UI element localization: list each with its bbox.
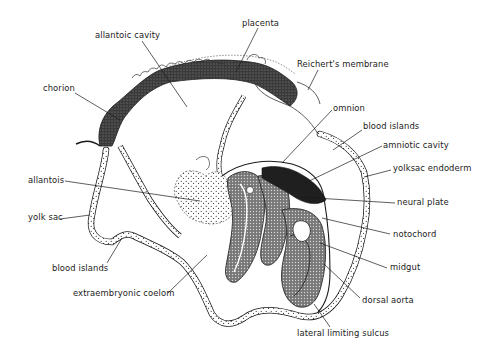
label-placenta: placenta (242, 18, 279, 28)
label-blood-islands-upper: blood islands (363, 121, 419, 131)
label-amniotic-cavity: amniotic cavity (383, 140, 449, 150)
label-blood-islands-lower: blood islands (52, 263, 108, 273)
label-omnion: omnion (333, 103, 365, 113)
label-allantoic-cavity: allantoic cavity (95, 30, 160, 40)
leader-line-amniotic-cavity (305, 146, 382, 183)
diagram-illustration (0, 0, 493, 354)
leader-line-yolk-sac-endoderm (364, 170, 391, 177)
label-lateral-limiting-sulcus: lateral limiting sulcus (297, 328, 389, 338)
label-reicherts-membrane: Reichert's membrane (297, 59, 389, 69)
label-midgut: midgut (390, 262, 420, 272)
label-neural-plate: neural plate (397, 197, 449, 207)
embryo-diagram: placenta allantoic cavity Reichert's mem… (0, 0, 493, 354)
leader-line-notochord (322, 218, 390, 234)
placenta-band (99, 54, 297, 146)
embryo-body (222, 161, 330, 312)
label-chorion: chorion (43, 83, 75, 93)
leader-line-reicherts-membrane (308, 70, 318, 90)
leader-line-yolk-sac (60, 215, 90, 219)
label-dorsal-aorta: dorsal aorta (362, 295, 414, 305)
label-allantois: allantois (28, 175, 64, 185)
label-extraembryonic-coelom: extraembryonic coelom (73, 288, 174, 298)
label-yolk-sac-endoderm: yolksac endoderm (393, 163, 471, 173)
allantois-mass (174, 156, 235, 224)
label-yolk-sac: yolk sac (28, 212, 63, 222)
label-notochord: notochord (393, 229, 436, 239)
